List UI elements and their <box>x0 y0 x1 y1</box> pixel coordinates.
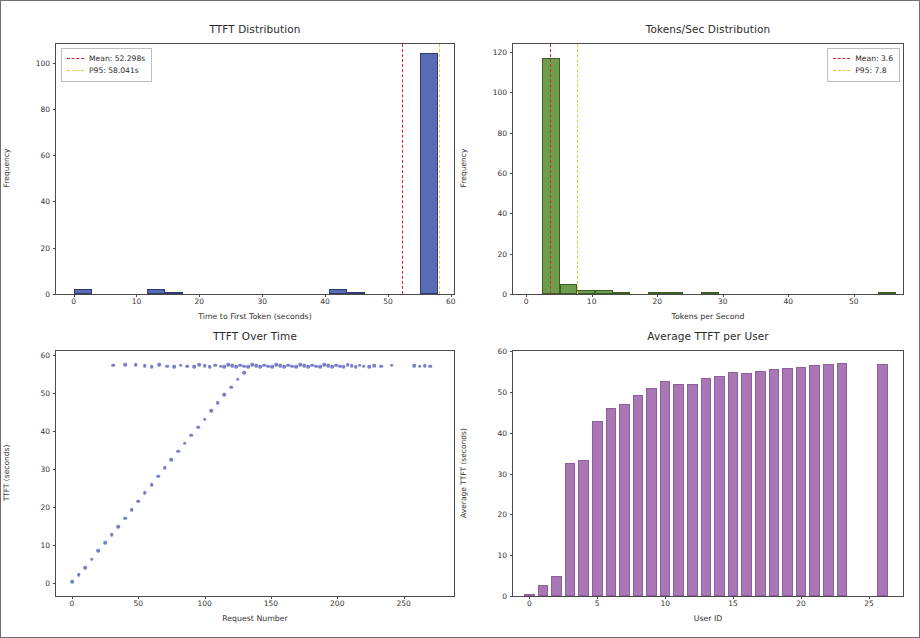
ttft-time-ylabel: TTFT (seconds) <box>2 444 11 501</box>
x-tick-label: 150 <box>264 599 278 608</box>
y-tick-mark <box>510 596 513 597</box>
y-tick-mark <box>53 583 56 584</box>
x-tick-label: 50 <box>133 599 143 608</box>
y-tick-mark <box>53 155 56 156</box>
user-bar <box>578 460 589 596</box>
user-bar <box>592 421 603 596</box>
scatter-point <box>136 500 140 504</box>
histogram-bar <box>329 289 347 294</box>
user-bar <box>673 384 684 596</box>
user-bar <box>823 364 834 596</box>
scatter-point <box>423 364 427 368</box>
scatter-point <box>197 363 201 367</box>
scatter-point <box>379 364 383 368</box>
user-bar <box>714 376 725 596</box>
x-tick-label: 20 <box>796 599 806 608</box>
scatter-point <box>179 364 183 368</box>
user-bar <box>606 408 617 596</box>
y-tick-label: 100 <box>483 88 507 97</box>
ttft-user-xlabel: User ID <box>512 614 904 623</box>
scatter-point <box>83 566 87 570</box>
scatter-point <box>192 365 196 369</box>
matplotlib-figure: TTFT Distribution Frequency 010203040506… <box>7 7 911 629</box>
y-tick-mark <box>53 469 56 470</box>
legend-entry: Mean: 3.6 <box>833 53 893 65</box>
legend-label: Mean: 3.6 <box>855 53 893 65</box>
y-tick-label: 20 <box>483 510 507 519</box>
y-tick-label: 50 <box>483 387 507 396</box>
scatter-point <box>196 426 200 430</box>
histogram-bar <box>74 289 92 294</box>
x-tick-label: 30 <box>718 297 728 306</box>
ttft-hist-xlabel: Time to First Token (seconds) <box>55 312 455 321</box>
x-tick-label: 10 <box>587 297 597 306</box>
histogram-bar <box>613 292 631 294</box>
y-tick-mark <box>53 545 56 546</box>
y-tick-mark <box>510 514 513 515</box>
y-tick-label: 60 <box>26 350 50 359</box>
user-bar <box>660 381 671 596</box>
y-tick-mark <box>510 351 513 352</box>
scatter-point <box>216 401 220 405</box>
y-tick-mark <box>53 355 56 356</box>
scatter-point <box>158 363 162 367</box>
legend-label: Mean: 52.298s <box>89 53 145 65</box>
tps-hist-ylabel: Frequency <box>459 149 468 188</box>
y-tick-label: 20 <box>26 243 50 252</box>
scatter-point <box>123 363 127 367</box>
histogram-bar <box>701 292 719 294</box>
scatter-point <box>203 418 207 422</box>
x-tick-label: 30 <box>257 297 267 306</box>
user-bar <box>701 378 712 596</box>
user-bar <box>877 364 888 596</box>
scatter-point <box>172 365 176 369</box>
y-tick-mark <box>53 109 56 110</box>
scatter-point <box>190 434 194 438</box>
scatter-point <box>143 491 147 495</box>
histogram-bar <box>147 289 165 294</box>
x-tick-label: 50 <box>383 297 393 306</box>
user-bar <box>809 365 820 596</box>
ttft-user-title: Average TTFT per User <box>512 330 904 342</box>
scatter-point <box>110 533 114 537</box>
y-tick-label: 0 <box>26 578 50 587</box>
y-tick-label: 20 <box>26 502 50 511</box>
scatter-point <box>236 377 240 381</box>
legend-entry: P95: 58.041s <box>67 65 145 77</box>
y-tick-mark <box>53 63 56 64</box>
y-tick-mark <box>510 52 513 53</box>
legend-entry: Mean: 52.298s <box>67 53 145 65</box>
ttft-hist-ylabel: Frequency <box>2 149 11 188</box>
legend-entry: P95: 7.8 <box>833 65 893 77</box>
y-tick-mark <box>510 294 513 295</box>
scatter-point <box>130 508 134 512</box>
x-tick-label: 25 <box>864 599 874 608</box>
tps-hist-legend: Mean: 3.6P95: 7.8 <box>827 48 900 82</box>
scatter-point <box>428 364 432 368</box>
y-tick-mark <box>53 201 56 202</box>
x-tick-label: 10 <box>132 297 142 306</box>
scatter-point <box>103 541 107 545</box>
y-tick-mark <box>53 248 56 249</box>
panel-ttft-over-time: TTFT Over Time TTFT (seconds) 0501001502… <box>55 350 455 597</box>
panel-ttft-distribution: TTFT Distribution Frequency 010203040506… <box>55 43 455 295</box>
y-tick-mark <box>53 431 56 432</box>
y-tick-label: 60 <box>483 347 507 356</box>
ttft-hist-title: TTFT Distribution <box>55 23 455 35</box>
scatter-point <box>150 365 154 369</box>
user-bar <box>782 368 793 596</box>
user-bar <box>551 576 562 596</box>
ttft-time-xlabel: Request Number <box>55 614 455 623</box>
vline-p95 <box>577 44 578 294</box>
user-bar <box>741 373 752 596</box>
y-tick-mark <box>53 294 56 295</box>
scatter-point <box>170 458 174 462</box>
y-tick-mark <box>510 392 513 393</box>
x-tick-label: 0 <box>70 599 75 608</box>
user-bar <box>837 363 848 596</box>
y-tick-label: 30 <box>26 464 50 473</box>
scatter-point <box>390 364 394 368</box>
y-tick-mark <box>510 133 513 134</box>
y-tick-label: 60 <box>26 151 50 160</box>
x-tick-label: 10 <box>660 599 670 608</box>
